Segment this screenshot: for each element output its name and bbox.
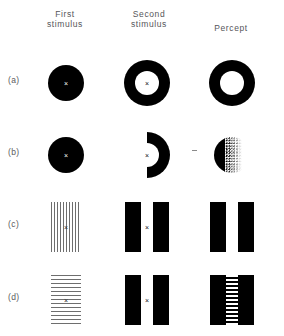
- cell-d-second-stimulus: ×: [112, 265, 182, 335]
- figure-row-b: (b) × ×: [0, 120, 284, 190]
- cell-d-percept: [197, 265, 267, 335]
- fixation-cross-icon: ×: [145, 224, 149, 231]
- row-label-a: (a): [8, 75, 20, 85]
- fixation-cross-icon: ×: [64, 297, 68, 304]
- column-header-line1: Percept: [214, 23, 248, 33]
- cell-d-first-stimulus: ×: [31, 265, 101, 335]
- stippled-half-disk-shape: [214, 137, 250, 173]
- stray-mark: [192, 150, 197, 151]
- figure-row-c: (c) × ×: [0, 192, 284, 262]
- fixation-cross-icon: ×: [145, 80, 149, 87]
- column-header-first-stimulus: First stimulus: [33, 9, 97, 29]
- cell-c-first-stimulus: ×: [31, 192, 101, 262]
- figure-panel: First stimulus Second stimulus Percept (…: [0, 0, 284, 336]
- column-header-second-stimulus: Second stimulus: [117, 9, 181, 29]
- stripe-fill: [226, 275, 238, 325]
- bar-left: [210, 202, 226, 252]
- bar-pair-shape: [210, 202, 254, 252]
- fixation-cross-icon: ×: [145, 297, 149, 304]
- cell-c-percept: [197, 192, 267, 262]
- fixation-cross-icon: ×: [64, 152, 68, 159]
- figure-row-a: (a) × ×: [0, 48, 284, 118]
- cell-a-first-stimulus: ×: [31, 48, 101, 118]
- bar-pair-striped-gap-shape: [210, 275, 254, 325]
- column-header-percept: Percept: [196, 23, 266, 33]
- fixation-cross-icon: ×: [64, 80, 68, 87]
- filled-disk-shape: ×: [48, 65, 84, 101]
- fixation-cross-icon: ×: [64, 224, 68, 231]
- bar-right: [153, 275, 169, 325]
- cell-b-first-stimulus: ×: [31, 120, 101, 190]
- row-label-d: (d): [8, 292, 20, 302]
- cell-a-percept: [197, 48, 267, 118]
- row-label-c: (c): [8, 219, 19, 229]
- annulus-shape: [209, 60, 255, 106]
- row-label-b: (b): [8, 147, 20, 157]
- horizontal-grating-shape: ×: [51, 275, 81, 325]
- vertical-grating-shape: ×: [51, 202, 81, 252]
- half-annulus-shape: ×: [124, 132, 170, 178]
- column-header-line1: Second: [133, 9, 165, 19]
- bar-left: [125, 275, 141, 325]
- column-headers: First stimulus Second stimulus Percept: [0, 0, 284, 44]
- cell-b-second-stimulus: ×: [112, 120, 182, 190]
- cell-c-second-stimulus: ×: [112, 192, 182, 262]
- bar-left: [125, 202, 141, 252]
- cell-a-second-stimulus: ×: [112, 48, 182, 118]
- column-header-line2: stimulus: [117, 19, 181, 29]
- bar-pair-shape: ×: [125, 202, 169, 252]
- bar-right: [153, 202, 169, 252]
- column-header-line1: First: [55, 9, 75, 19]
- bar-pair-shape: ×: [125, 275, 169, 325]
- bar-right: [238, 202, 254, 252]
- annulus-shape: ×: [124, 60, 170, 106]
- cell-b-percept: [197, 120, 267, 190]
- figure-row-d: (d) × ×: [0, 265, 284, 335]
- column-header-line2: stimulus: [33, 19, 97, 29]
- filled-disk-shape: ×: [48, 137, 84, 173]
